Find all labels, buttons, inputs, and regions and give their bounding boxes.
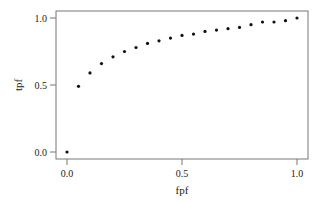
y-tick-label: 0.5 <box>35 80 48 91</box>
x-axis-label: fpf <box>176 184 189 196</box>
data-point <box>169 37 172 40</box>
data-point <box>100 62 103 65</box>
data-point <box>272 20 275 23</box>
x-tick-label: 1.0 <box>291 168 304 179</box>
data-point <box>284 19 287 22</box>
x-axis-ticks: 0.00.51.0 <box>61 159 304 179</box>
data-point <box>134 46 137 49</box>
roc-scatter-chart: 0.00.51.0 0.00.51.0 fpf tpf <box>0 0 324 202</box>
y-axis-label: tpf <box>12 79 24 92</box>
data-point <box>261 20 264 23</box>
data-point <box>123 50 126 53</box>
x-tick-label: 0.0 <box>61 168 74 179</box>
data-point <box>157 39 160 42</box>
data-points <box>65 16 298 153</box>
data-point <box>238 26 241 29</box>
y-tick-label: 0.0 <box>35 147 48 158</box>
data-point <box>180 34 183 37</box>
data-point <box>111 55 114 58</box>
y-tick-label: 1.0 <box>35 13 48 24</box>
plot-frame <box>56 11 308 159</box>
data-point <box>77 85 80 88</box>
x-tick-label: 0.5 <box>176 168 189 179</box>
data-point <box>215 28 218 31</box>
data-point <box>88 71 91 74</box>
data-point <box>146 42 149 45</box>
data-point <box>249 23 252 26</box>
data-point <box>295 16 298 19</box>
data-point <box>65 150 68 153</box>
y-axis-ticks: 0.00.51.0 <box>35 13 57 158</box>
data-point <box>203 30 206 33</box>
data-point <box>226 27 229 30</box>
data-point <box>192 32 195 35</box>
